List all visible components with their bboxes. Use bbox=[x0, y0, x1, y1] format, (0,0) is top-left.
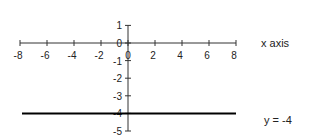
chart-plot: -8-6-4-20246810-1-2-3-4-5 bbox=[0, 0, 309, 140]
x-tick-label: -6 bbox=[41, 50, 50, 61]
y-tick-label: 0 bbox=[116, 38, 122, 49]
y-tick-label: -5 bbox=[113, 126, 122, 137]
y-tick-label: 1 bbox=[116, 20, 122, 31]
y-tick-label: -1 bbox=[113, 56, 122, 67]
x-tick-label: 4 bbox=[177, 50, 183, 61]
x-tick-label: -8 bbox=[14, 50, 23, 61]
x-tick-label: 6 bbox=[204, 50, 210, 61]
y-tick-label: -2 bbox=[113, 73, 122, 84]
x-tick-label: -2 bbox=[95, 50, 104, 61]
line-label: y = -4 bbox=[264, 114, 292, 126]
y-tick-label: -3 bbox=[113, 91, 122, 102]
x-axis-label: x axis bbox=[261, 37, 289, 49]
x-tick-label: -4 bbox=[68, 50, 77, 61]
x-tick-label: 2 bbox=[150, 50, 156, 61]
x-tick-label: 8 bbox=[231, 50, 237, 61]
